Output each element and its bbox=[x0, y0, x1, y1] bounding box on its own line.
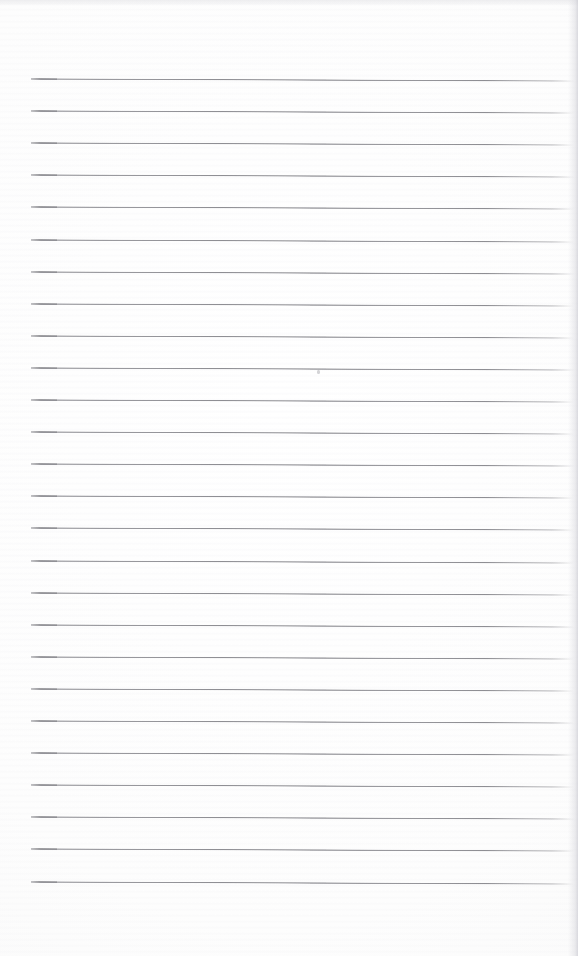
ruled-line bbox=[31, 752, 574, 756]
ruled-line bbox=[31, 174, 574, 178]
ruled-lines-group bbox=[0, 0, 578, 956]
ruled-line bbox=[31, 560, 574, 564]
ruled-line bbox=[31, 399, 574, 403]
ruled-line bbox=[31, 142, 574, 146]
ruled-line bbox=[31, 784, 574, 788]
ruled-line bbox=[31, 206, 574, 210]
ruled-line bbox=[31, 78, 574, 82]
ruled-line bbox=[31, 527, 574, 531]
ruled-line bbox=[31, 239, 574, 243]
ruled-line bbox=[31, 881, 574, 885]
ruled-line bbox=[31, 110, 574, 114]
ruled-line bbox=[31, 720, 574, 724]
ruled-line bbox=[31, 335, 574, 339]
ruled-line bbox=[31, 592, 574, 596]
ruled-line bbox=[31, 303, 574, 307]
ruled-line bbox=[31, 624, 574, 628]
ruled-line bbox=[31, 431, 574, 435]
ruled-line bbox=[31, 656, 574, 660]
ruled-line bbox=[31, 816, 574, 820]
ruled-line bbox=[31, 848, 574, 852]
ruled-line bbox=[31, 367, 574, 371]
ruled-line bbox=[31, 495, 574, 499]
ruled-line bbox=[31, 463, 574, 467]
scanned-page bbox=[0, 0, 578, 956]
ruled-line bbox=[31, 688, 574, 692]
ruled-line bbox=[31, 271, 574, 275]
